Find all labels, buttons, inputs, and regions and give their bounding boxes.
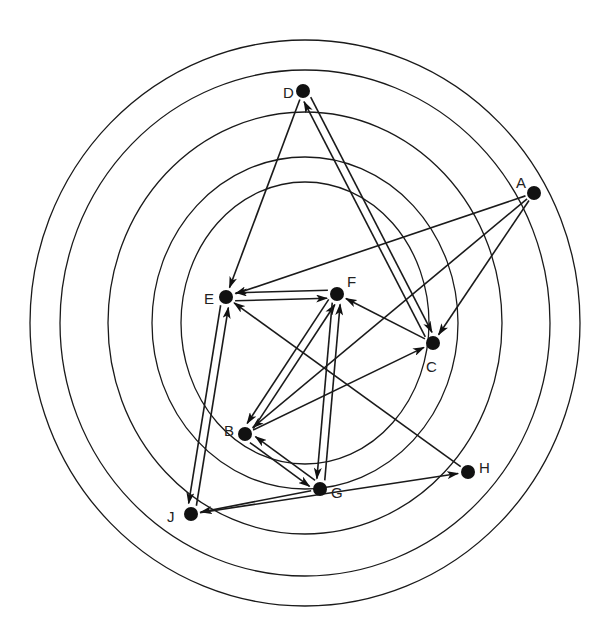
node-C: C	[426, 336, 440, 375]
edge-E-to-J	[189, 305, 221, 503]
node-label: H	[479, 459, 490, 476]
node-dot	[426, 336, 440, 350]
edge-F-to-B	[247, 299, 329, 423]
node-label: F	[347, 273, 356, 290]
concentric-network-diagram: ABCDEFGHJ	[0, 0, 607, 631]
edge-C-to-F	[346, 299, 425, 339]
ring-4	[152, 157, 458, 489]
node-J: J	[167, 507, 198, 525]
edge-C-to-D	[304, 102, 425, 337]
edge-A-to-B	[253, 199, 527, 428]
concentric-rings	[30, 40, 580, 606]
edge-D-to-C	[311, 97, 432, 332]
node-label: D	[283, 84, 294, 101]
node-A: A	[516, 174, 541, 200]
edge-E-to-F	[235, 298, 327, 300]
node-dot	[330, 287, 344, 301]
node-dot	[184, 507, 198, 521]
node-G: G	[313, 482, 343, 501]
edge-D-to-E	[230, 99, 300, 287]
node-label: G	[331, 484, 343, 501]
node-dot	[313, 482, 327, 496]
node-D: D	[283, 84, 310, 101]
node-dot	[219, 290, 233, 304]
edge-G-to-B	[255, 437, 315, 481]
node-label: C	[426, 358, 437, 375]
node-B: B	[224, 422, 252, 441]
ring-3	[108, 112, 502, 534]
node-dot	[527, 186, 541, 200]
node-dot	[461, 465, 475, 479]
node-label: J	[167, 508, 175, 525]
edge-F-to-E	[236, 290, 328, 292]
edge-J-to-H	[200, 473, 458, 512]
edge-H-to-E	[234, 303, 461, 467]
node-E: E	[204, 290, 233, 307]
edge-G-to-F	[325, 304, 340, 480]
node-H: H	[461, 459, 490, 479]
node-dot	[296, 84, 310, 98]
node-dot	[238, 427, 252, 441]
ring-1	[30, 40, 580, 606]
node-F: F	[330, 273, 356, 301]
node-label: B	[224, 422, 234, 439]
node-label: E	[204, 290, 214, 307]
ring-2	[60, 70, 550, 576]
graph-nodes: ABCDEFGHJ	[167, 84, 541, 525]
edge-G-to-J	[201, 491, 311, 512]
edge-J-to-E	[196, 308, 228, 506]
node-label: A	[516, 174, 526, 191]
